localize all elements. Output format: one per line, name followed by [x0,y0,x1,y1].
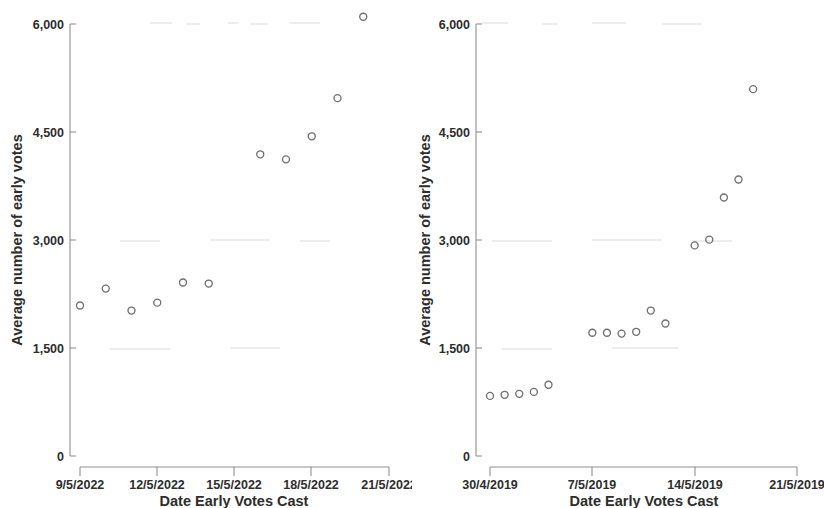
data-point-marker [516,390,523,397]
data-point-marker [77,302,84,309]
data-point-marker [633,328,640,335]
right-y-axis-title: Average number of early votes [417,134,433,345]
left-ytick-label-4500: 4,500 [33,126,64,140]
right-ytick-label-6000: 6,000 [439,18,470,32]
left-xtick-label-4: 21/5/2022 [361,478,412,492]
data-point-marker [720,194,727,201]
data-point-marker [603,329,610,336]
chart-panel-right: 6,000 4,500 3,000 1,500 0 Average number… [412,0,824,508]
left-ytick-label-6000: 6,000 [33,18,64,32]
right-ytick-label-3000: 3,000 [439,234,470,248]
data-point-marker [735,176,742,183]
right-x-axis-title: Date Early Votes Cast [570,493,719,508]
left-y-axis-title: Average number of early votes [9,134,25,345]
right-ytick-label-1500: 1,500 [439,342,470,356]
left-xtick-label-3: 18/5/2022 [283,478,339,492]
scan-noise-left [110,22,330,350]
data-point-marker [128,307,135,314]
right-y-axis [476,24,482,456]
right-ytick-label-0: 0 [463,450,470,464]
data-point-marker [501,391,508,398]
data-point-marker [530,388,537,395]
left-xtick-label-1: 12/5/2022 [129,478,185,492]
right-xtick-label-0: 30/4/2019 [462,478,518,492]
data-point-marker [283,156,290,163]
data-point-marker [487,392,494,399]
scatter-plot-figure: 6,000 4,500 3,000 1,500 0 Average number… [0,0,824,508]
data-point-marker [334,95,341,102]
right-x-axis [490,467,797,476]
data-point-marker [662,320,669,327]
data-point-marker [618,330,625,337]
data-point-marker [589,329,596,336]
data-point-marker [647,307,654,314]
chart-panel-left: 6,000 4,500 3,000 1,500 0 Average number… [0,0,412,508]
data-point-marker [706,236,713,243]
right-data-points [487,86,757,400]
data-point-marker [257,151,264,158]
data-point-marker [360,13,367,20]
right-xtick-label-2: 14/5/2019 [667,478,723,492]
left-y-axis [70,24,76,456]
scan-noise-right [482,22,732,350]
data-point-marker [102,285,109,292]
left-ytick-label-1500: 1,500 [33,342,64,356]
right-xtick-label-1: 7/5/2019 [568,478,617,492]
data-point-marker [180,279,187,286]
data-point-marker [154,299,161,306]
left-x-axis-title: Date Early Votes Cast [160,493,309,508]
left-xtick-label-0: 9/5/2022 [56,478,105,492]
left-ytick-label-0: 0 [57,450,64,464]
right-xtick-label-3: 21/5/2019 [769,478,824,492]
data-point-marker [205,280,212,287]
left-chart-svg: 6,000 4,500 3,000 1,500 0 Average number… [0,0,412,508]
left-xtick-label-2: 15/5/2022 [206,478,262,492]
data-point-marker [750,86,757,93]
data-point-marker [545,381,552,388]
right-ytick-label-4500: 4,500 [439,126,470,140]
data-point-marker [308,133,315,140]
left-data-points [77,13,367,314]
left-x-axis [80,467,389,476]
data-point-marker [691,242,698,249]
right-chart-svg: 6,000 4,500 3,000 1,500 0 Average number… [412,0,824,508]
left-ytick-label-3000: 3,000 [33,234,64,248]
